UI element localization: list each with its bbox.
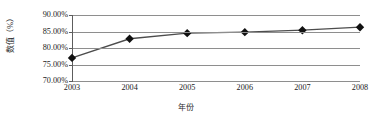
y-axis-tick-labels: 90.00%85.00%80.00%75.00%70.00%: [26, 15, 70, 81]
y-axis-tickmark: [69, 81, 73, 82]
x-axis-tick-labels: 200320042005200620072008: [72, 84, 360, 98]
x-axis-tick-label: 2004: [121, 84, 137, 92]
data-point-marker: [125, 35, 133, 43]
x-axis-tick-label: 2008: [352, 84, 368, 92]
y-axis-tick-label: 85.00%: [43, 27, 68, 35]
gridline: [72, 65, 360, 66]
gridline: [72, 15, 360, 16]
y-axis-tickmark: [69, 15, 73, 16]
x-axis-title: 年份: [0, 101, 372, 112]
x-axis-tick-label: 2007: [294, 84, 310, 92]
gridline: [72, 48, 360, 49]
data-point-marker: [298, 26, 306, 34]
y-axis-tickmark: [69, 65, 73, 66]
y-axis-tick-label: 90.00%: [43, 11, 68, 19]
y-axis-tickmark: [69, 32, 73, 33]
gridline: [72, 81, 360, 82]
y-axis-tickmark: [69, 48, 73, 49]
x-axis-tick-label: 2003: [64, 84, 80, 92]
y-axis-title: 数值（%）: [4, 5, 15, 63]
line-chart: 数值（%） 90.00%85.00%80.00%75.00%70.00% 200…: [0, 0, 372, 121]
data-point-marker: [356, 23, 364, 31]
y-axis-tick-label: 75.00%: [43, 60, 68, 68]
y-axis-tick-label: 80.00%: [43, 44, 68, 52]
gridline: [72, 32, 360, 33]
x-axis-tick-label: 2006: [237, 84, 253, 92]
data-point-marker: [183, 29, 191, 37]
x-axis-tick-label: 2005: [179, 84, 195, 92]
plot-area: [72, 15, 360, 81]
